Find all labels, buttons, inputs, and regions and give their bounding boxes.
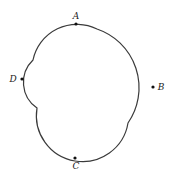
point-d: D	[8, 74, 23, 84]
point-c-label: C	[73, 161, 80, 171]
point-b-label: B	[157, 82, 165, 92]
diagram-canvas: A B C D	[0, 0, 173, 175]
closed-curve	[23, 24, 139, 161]
point-d-label: D	[8, 74, 16, 84]
point-b-dot	[151, 85, 154, 88]
point-b: B	[151, 82, 164, 92]
point-d-dot	[20, 77, 23, 80]
point-a: A	[72, 11, 80, 26]
point-a-label: A	[72, 11, 80, 21]
point-c-dot	[73, 156, 76, 159]
point-c: C	[73, 156, 80, 171]
point-a-dot	[74, 22, 77, 25]
